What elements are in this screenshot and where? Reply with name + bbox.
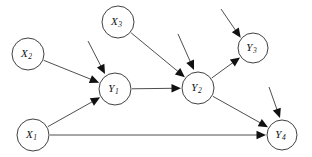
edge-arrowhead — [171, 84, 181, 92]
node-label-subscript: 2 — [28, 52, 32, 61]
node-y2[interactable]: Y2 — [182, 72, 214, 104]
node-y4[interactable]: Y4 — [267, 120, 297, 150]
edge-x1-to-y1 — [48, 97, 100, 126]
disturbance-line — [269, 87, 277, 110]
node-x2[interactable]: X2 — [12, 38, 44, 70]
node-x3[interactable]: X3 — [102, 6, 134, 38]
node-x1[interactable]: X1 — [17, 119, 49, 151]
edge-arrowhead — [175, 68, 185, 77]
node-y1[interactable]: Y1 — [99, 73, 131, 105]
edge-line — [213, 96, 261, 123]
edge-line — [131, 33, 179, 72]
disturbance-arrow-y3 — [221, 9, 241, 38]
disturbance-arrow-y1 — [88, 41, 105, 74]
edge-x3-to-y2 — [131, 33, 185, 77]
path-diagram-canvas: X2X3X1Y1Y2Y3Y4 — [0, 0, 312, 157]
node-label-subscript: 1 — [115, 87, 119, 96]
edge-y2-to-y4 — [213, 96, 268, 127]
node-label-subscript: 3 — [252, 46, 257, 55]
path-diagram-svg: X2X3X1Y1Y2Y3Y4 — [0, 0, 312, 157]
edge-x2-to-y1 — [44, 60, 99, 83]
disturbance-line — [221, 9, 236, 31]
edge-arrowhead — [230, 57, 240, 66]
edge-line — [44, 60, 92, 79]
edge-x1-to-y4 — [50, 131, 266, 139]
node-label-subscript: 3 — [117, 20, 122, 29]
disturbance-arrow-y2 — [178, 34, 194, 70]
disturbance-arrowhead — [232, 28, 241, 38]
node-y3[interactable]: Y3 — [238, 33, 268, 63]
edge-arrowhead — [90, 97, 100, 105]
node-label-subscript: 2 — [198, 86, 202, 95]
disturbance-arrow-y4 — [269, 87, 281, 118]
node-label-subscript: 1 — [33, 133, 37, 142]
edge-line — [212, 62, 234, 78]
disturbance-line — [178, 34, 191, 63]
disturbance-arrowhead — [273, 108, 281, 118]
edge-arrowhead — [257, 131, 267, 139]
edges-layer — [44, 33, 268, 139]
edge-y2-to-y3 — [212, 57, 240, 78]
edge-arrowhead — [258, 119, 268, 127]
disturbance-line — [88, 41, 101, 67]
nodes-layer: X2X3X1Y1Y2Y3Y4 — [12, 6, 297, 151]
edge-y1-to-y2 — [132, 84, 181, 92]
edge-line — [48, 101, 93, 126]
node-label-subscript: 4 — [282, 133, 286, 142]
